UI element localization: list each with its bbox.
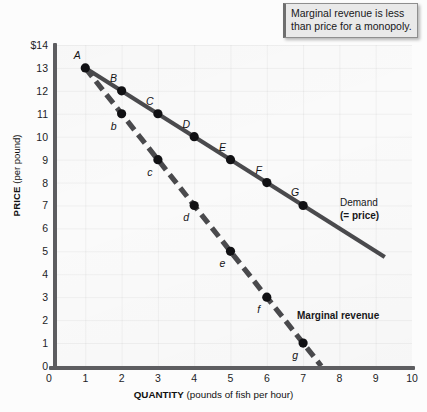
y-axis-title-rest: (per pound)	[11, 135, 22, 187]
y-tick-label: 11	[2, 108, 48, 120]
x-tick-label: 3	[146, 372, 170, 384]
y-tick-label: 2	[2, 314, 48, 326]
y-tick-label: 5	[2, 245, 48, 257]
x-tick-label: 7	[291, 372, 315, 384]
data-point-label: g	[292, 349, 298, 361]
data-point-label: C	[146, 95, 154, 107]
x-tick-label: 6	[255, 372, 279, 384]
x-axis-title-rest: (pounds of fish per hour)	[184, 389, 293, 400]
x-axis-title-bold: QUANTITY	[134, 389, 184, 400]
x-tick-label: 2	[110, 372, 134, 384]
x-tick-label: 9	[364, 372, 388, 384]
figure-container: Marginal revenue is less than price for …	[0, 0, 427, 412]
callout-text: Marginal revenue is less than price for …	[291, 7, 412, 32]
data-point-label: F	[256, 164, 262, 176]
x-tick-label: 1	[73, 372, 97, 384]
data-point-label: D	[182, 118, 190, 130]
y-tick-label: 7	[2, 199, 48, 211]
data-point-label: f	[257, 303, 260, 315]
x-tick-label: 10	[400, 372, 424, 384]
y-tick-label: 8	[2, 177, 48, 189]
y-axis-title-bold: PRICE	[11, 186, 22, 216]
x-axis-title: QUANTITY (pounds of fish per hour)	[0, 389, 427, 400]
x-tick-label: 5	[219, 372, 243, 384]
data-point-label: G	[291, 186, 299, 198]
data-point-label: c	[147, 166, 152, 178]
y-tick-label: $14	[2, 39, 48, 51]
data-point-label: B	[110, 72, 117, 84]
x-axis-line	[49, 366, 415, 370]
y-tick-label: 1	[2, 337, 48, 349]
data-point-label: d	[183, 211, 189, 223]
y-tick-label: 9	[2, 154, 48, 166]
y-tick-label: 4	[2, 268, 48, 280]
y-axis-tick-labels: $14131211109876543210	[0, 0, 48, 412]
data-point-label: e	[220, 257, 226, 269]
data-point-label: E	[219, 141, 226, 153]
y-tick-label: 3	[2, 291, 48, 303]
y-tick-label: 10	[2, 131, 48, 143]
y-axis-title: PRICE (per pound)	[11, 111, 22, 241]
demand-label-line1: Demand	[340, 196, 379, 209]
y-tick-label: 12	[2, 85, 48, 97]
x-tick-label: 8	[327, 372, 351, 384]
x-tick-label: 0	[37, 372, 61, 384]
data-point-label: b	[111, 120, 117, 132]
y-tick-label: 6	[2, 222, 48, 234]
data-point-label: A	[74, 49, 81, 61]
demand-label-line2: (= price)	[340, 209, 379, 222]
x-tick-label: 4	[182, 372, 206, 384]
callout-box: Marginal revenue is less than price for …	[283, 3, 418, 38]
demand-curve-label: Demand (= price)	[340, 196, 379, 222]
marginal-revenue-curve-label: Marginal revenue	[297, 310, 379, 321]
y-tick-label: 13	[2, 62, 48, 74]
y-tick-label: 0	[2, 360, 48, 372]
